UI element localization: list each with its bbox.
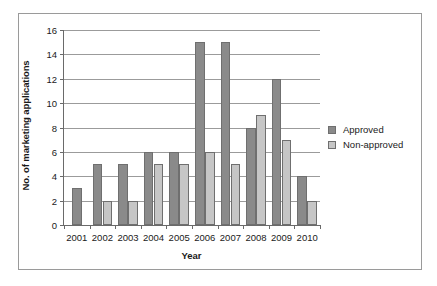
bar-2007-approved[interactable] xyxy=(221,42,231,225)
x-axis-tick-label: 2001 xyxy=(66,232,87,243)
bar-2007-non-approved[interactable] xyxy=(231,164,241,225)
bar-2004-approved[interactable] xyxy=(144,152,154,225)
x-axis-tick-label: 2009 xyxy=(271,232,292,243)
bar-2010-non-approved[interactable] xyxy=(307,201,317,225)
y-axis-tick-label: 4 xyxy=(52,171,57,182)
x-axis-tick-mark xyxy=(269,225,270,229)
bar-2010-approved[interactable] xyxy=(297,176,307,225)
chart-figure: No. of marketing applications 0246810121… xyxy=(0,0,437,286)
bar-2003-non-approved[interactable] xyxy=(128,201,138,225)
bar-2005-non-approved[interactable] xyxy=(179,164,189,225)
x-axis-tick-mark xyxy=(166,225,167,229)
legend-item-approved[interactable]: Approved xyxy=(328,122,403,137)
y-axis-tick-label: 0 xyxy=(52,220,57,231)
x-axis-tick-mark xyxy=(192,225,193,229)
x-axis-tick-mark xyxy=(90,225,91,229)
y-axis-tick-label: 14 xyxy=(46,49,57,60)
bar-2002-approved[interactable] xyxy=(93,164,103,225)
legend-swatch-approved-icon xyxy=(328,126,336,134)
bar-group xyxy=(141,30,167,225)
x-axis-tick-mark xyxy=(243,225,244,229)
legend-label-non-approved: Non-approved xyxy=(343,139,403,150)
bar-2006-non-approved[interactable] xyxy=(205,152,215,225)
legend-swatch-non-approved-icon xyxy=(328,141,336,149)
bar-group xyxy=(90,30,116,225)
plot-area: 0246810121416200120022003200420052006200… xyxy=(63,30,320,226)
bar-group xyxy=(192,30,218,225)
x-axis-tick-label: 2007 xyxy=(220,232,241,243)
x-axis-tick-mark xyxy=(320,225,321,229)
y-axis-tick-label: 6 xyxy=(52,146,57,157)
x-axis-title: Year xyxy=(63,250,320,261)
bar-group xyxy=(166,30,192,225)
legend-label-approved: Approved xyxy=(343,124,384,135)
bar-group xyxy=(115,30,141,225)
y-axis-tick-label: 10 xyxy=(46,98,57,109)
chart-legend: Approved Non-approved xyxy=(328,122,403,152)
bar-2004-non-approved[interactable] xyxy=(154,164,164,225)
y-axis-title-text: No. of marketing applications xyxy=(20,60,31,190)
bar-2002-non-approved[interactable] xyxy=(103,201,113,225)
bar-2008-non-approved[interactable] xyxy=(256,115,266,225)
y-axis-tick-label: 2 xyxy=(52,195,57,206)
bar-group xyxy=(64,30,90,225)
x-axis-tick-mark xyxy=(141,225,142,229)
x-axis-tick-mark xyxy=(115,225,116,229)
bar-group xyxy=(269,30,295,225)
x-axis-tick-label: 2008 xyxy=(245,232,266,243)
bar-2009-approved[interactable] xyxy=(272,79,282,225)
x-axis-tick-label: 2006 xyxy=(194,232,215,243)
y-axis-tick-label: 12 xyxy=(46,73,57,84)
bar-2006-approved[interactable] xyxy=(195,42,205,225)
bar-2003-approved[interactable] xyxy=(118,164,128,225)
bar-2001-approved[interactable] xyxy=(72,188,82,225)
x-axis-tick-mark xyxy=(294,225,295,229)
x-axis-tick-label: 2005 xyxy=(169,232,190,243)
bar-2005-approved[interactable] xyxy=(169,152,179,225)
x-axis-tick-label: 2010 xyxy=(297,232,318,243)
bar-group xyxy=(218,30,244,225)
bar-2009-non-approved[interactable] xyxy=(282,140,292,225)
y-axis-tick-label: 8 xyxy=(52,122,57,133)
bar-2008-approved[interactable] xyxy=(246,128,256,226)
x-axis-tick-mark xyxy=(64,225,65,229)
y-axis-title: No. of marketing applications xyxy=(17,30,33,220)
legend-item-non-approved[interactable]: Non-approved xyxy=(328,137,403,152)
bar-group xyxy=(243,30,269,225)
x-axis-tick-label: 2003 xyxy=(117,232,138,243)
x-axis-tick-label: 2004 xyxy=(143,232,164,243)
bar-group xyxy=(294,30,320,225)
x-axis-tick-label: 2002 xyxy=(92,232,113,243)
y-axis-tick-label: 16 xyxy=(46,25,57,36)
x-axis-tick-mark xyxy=(218,225,219,229)
